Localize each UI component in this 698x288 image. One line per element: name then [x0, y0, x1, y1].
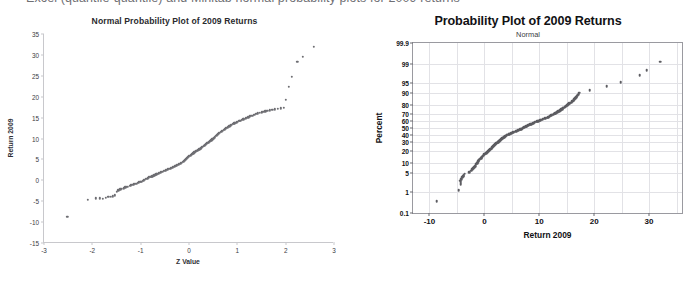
data-point — [578, 91, 581, 94]
excel-x-tick-label: 0 — [187, 247, 191, 254]
minitab-x-tick-mark — [594, 213, 595, 216]
minitab-y-tick-label: 99 — [402, 61, 409, 68]
excel-x-tick-label: 2 — [284, 247, 288, 254]
minitab-y-tick-label: 99.9 — [396, 40, 409, 47]
data-point — [296, 61, 298, 63]
gridline-vertical — [594, 43, 595, 213]
minitab-y-tick-mark — [410, 43, 413, 44]
data-point — [115, 191, 117, 193]
minitab-y-tick-mark — [410, 64, 413, 65]
minitab-y-tick-mark — [410, 113, 413, 114]
excel-y-tick-label: 35 — [32, 31, 39, 38]
excel-y-tick-label: 30 — [32, 51, 39, 58]
excel-y-tick-mark — [41, 201, 44, 202]
minitab-x-tick-mark — [649, 213, 650, 216]
excel-y-tick-mark — [41, 159, 44, 160]
excel-x-tick-mark — [189, 242, 190, 245]
gridline-vertical — [457, 43, 458, 213]
minitab-y-tick-mark — [410, 173, 413, 174]
excel-y-tick-label: 5 — [35, 156, 39, 163]
minitab-y-tick-label: 30 — [402, 139, 409, 146]
excel-chart-title: Normal Probability Plot of 2009 Returns — [0, 16, 349, 26]
gridline-vertical — [622, 43, 623, 213]
gridline-horizontal — [413, 64, 682, 65]
excel-x-tick-mark — [44, 242, 45, 245]
minitab-x-tick-mark — [539, 213, 540, 216]
excel-y-tick-label: 0 — [35, 177, 39, 184]
gridline-horizontal — [413, 173, 682, 174]
excel-y-tick-label: 20 — [32, 93, 39, 100]
minitab-plot-area: 99.99995908070605040302010510.1-10010203… — [412, 42, 683, 214]
excel-y-tick-mark — [41, 75, 44, 76]
gridline-horizontal — [413, 142, 682, 143]
data-point — [463, 172, 466, 175]
gridline-horizontal — [413, 192, 682, 193]
excel-y-tick-label: -10 — [30, 219, 39, 226]
excel-x-tick-mark — [92, 242, 93, 245]
gridline-vertical — [539, 43, 540, 213]
excel-plot-area: -15-10-505101520253035-3-2-10123 — [43, 34, 333, 243]
gridline-vertical — [567, 43, 568, 213]
excel-y-tick-label: 25 — [32, 72, 39, 79]
minitab-x-tick-mark — [484, 213, 485, 216]
minitab-chart-title: Probability Plot of 2009 Returns — [370, 14, 686, 28]
gridline-vertical — [484, 43, 485, 213]
gridline-horizontal — [413, 151, 682, 152]
excel-y-tick-mark — [41, 180, 44, 181]
data-point — [301, 55, 303, 57]
excel-qq-plot: Normal Probability Plot of 2009 Returns … — [0, 10, 349, 288]
minitab-y-tick-mark — [410, 92, 413, 93]
gridline-horizontal — [413, 105, 682, 106]
excel-x-axis-label: Z Value — [43, 258, 333, 265]
gridline-vertical — [512, 43, 513, 213]
minitab-y-tick-label: 40 — [402, 131, 409, 138]
excel-y-tick-mark — [41, 138, 44, 139]
gridline-horizontal — [413, 121, 682, 122]
data-point — [287, 86, 289, 88]
data-point — [457, 189, 460, 192]
excel-x-tick-label: -1 — [138, 247, 144, 254]
excel-x-tick-mark — [334, 242, 335, 245]
minitab-x-tick-label: 10 — [535, 217, 544, 226]
data-point — [435, 200, 438, 203]
excel-y-tick-mark — [41, 222, 44, 223]
excel-y-tick-mark — [41, 96, 44, 97]
data-point — [66, 215, 68, 217]
excel-y-tick-mark — [41, 54, 44, 55]
excel-y-tick-mark — [41, 117, 44, 118]
minitab-y-tick-label: 1 — [405, 188, 409, 195]
excel-x-tick-mark — [140, 242, 141, 245]
gridline-horizontal — [413, 128, 682, 129]
data-point — [312, 45, 314, 47]
excel-x-tick-label: -2 — [89, 247, 95, 254]
data-point — [646, 69, 649, 72]
minitab-y-tick-label: 20 — [402, 148, 409, 155]
excel-y-tick-label: 15 — [32, 114, 39, 121]
excel-x-tick-mark — [285, 242, 286, 245]
minitab-y-tick-label: 60 — [402, 118, 409, 125]
minitab-x-tick-label: 30 — [645, 217, 654, 226]
data-point — [638, 74, 641, 77]
figure-caption-text: Excel (quantile-quantile) and Minitab no… — [26, 0, 460, 5]
excel-y-axis-label: Return 2009 — [7, 119, 14, 158]
minitab-y-tick-mark — [410, 191, 413, 192]
data-point — [619, 81, 622, 84]
minitab-y-tick-label: 90 — [402, 89, 409, 96]
minitab-y-tick-mark — [410, 128, 413, 129]
minitab-y-tick-label: 70 — [402, 110, 409, 117]
gridline-vertical — [649, 43, 650, 213]
data-point — [605, 85, 608, 88]
minitab-y-tick-label: 10 — [402, 160, 409, 167]
excel-x-tick-label: -3 — [41, 247, 47, 254]
excel-y-tick-mark — [41, 34, 44, 35]
minitab-x-tick-label: 20 — [590, 217, 599, 226]
minitab-y-tick-mark — [410, 134, 413, 135]
minitab-y-tick-label: 5 — [405, 170, 409, 177]
gridline-horizontal — [413, 163, 682, 164]
minitab-y-tick-label: 0.1 — [400, 210, 409, 217]
minitab-y-tick-mark — [410, 151, 413, 152]
gridline-horizontal — [413, 135, 682, 136]
minitab-y-tick-mark — [410, 163, 413, 164]
minitab-y-tick-mark — [410, 213, 413, 214]
minitab-y-tick-mark — [410, 121, 413, 122]
